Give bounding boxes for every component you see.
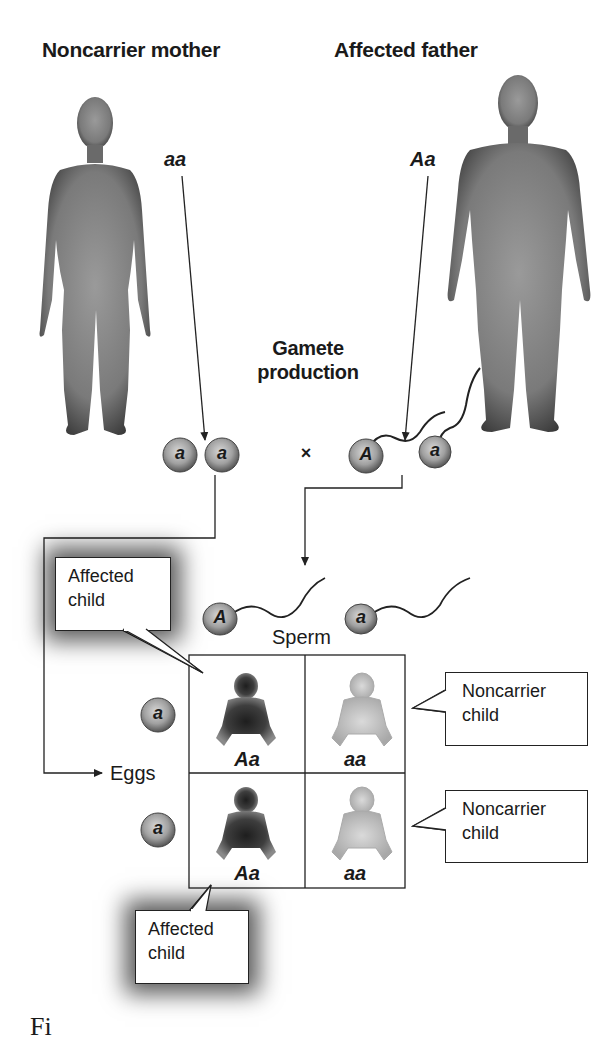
punnett-sperm-allele-A: A bbox=[210, 607, 230, 628]
callout-line2: child bbox=[68, 588, 158, 612]
father-genotype: Aa bbox=[410, 148, 436, 171]
egg-allele-1: a bbox=[170, 443, 190, 464]
sperm-label: Sperm bbox=[272, 626, 331, 649]
cell-genotype-3: Aa bbox=[189, 862, 305, 885]
punnett-sperm-allele-a: a bbox=[351, 607, 371, 628]
mother-genotype: aa bbox=[164, 148, 186, 171]
cell-genotype-1: Aa bbox=[189, 748, 305, 771]
callout-line1: Noncarrier bbox=[462, 679, 575, 703]
baby-affected-1-icon bbox=[216, 673, 276, 746]
cross-symbol: × bbox=[296, 443, 316, 464]
gamete-production-label: Gamete production bbox=[248, 336, 368, 384]
figure-caption-fragment: Fi bbox=[30, 1012, 52, 1039]
callout-line1: Affected bbox=[68, 564, 158, 588]
egg-allele-2: a bbox=[212, 443, 232, 464]
affected-child-callout-top: Affected child bbox=[55, 557, 171, 631]
noncarrier-child-callout-bottom: Noncarrier child bbox=[445, 790, 588, 863]
sperm-allele-a: a bbox=[425, 440, 445, 461]
mother-title: Noncarrier mother bbox=[42, 38, 220, 62]
gamete-production-line1: Gamete bbox=[248, 336, 368, 360]
gamete-production-line2: production bbox=[248, 360, 368, 384]
father-title: Affected father bbox=[334, 38, 478, 62]
baby-affected-2-icon bbox=[216, 787, 276, 860]
callout-line1: Affected bbox=[148, 917, 236, 941]
father-figure-icon bbox=[448, 75, 591, 432]
sperm-allele-A: A bbox=[356, 444, 376, 465]
punnett-egg-allele-2: a bbox=[148, 818, 168, 839]
baby-noncarrier-1-icon bbox=[332, 673, 392, 746]
cell-genotype-4: aa bbox=[305, 862, 405, 885]
affected-child-callout-bottom: Affected child bbox=[135, 910, 249, 984]
callout-line2: child bbox=[462, 821, 575, 845]
baby-noncarrier-2-icon bbox=[332, 787, 392, 860]
eggs-label: Eggs bbox=[110, 762, 156, 785]
cell-genotype-2: aa bbox=[305, 748, 405, 771]
callout-line2: child bbox=[148, 941, 236, 965]
callout-line1: Noncarrier bbox=[462, 797, 575, 821]
callout-line2: child bbox=[462, 703, 575, 727]
punnett-egg-allele-1: a bbox=[148, 703, 168, 724]
noncarrier-child-callout-top: Noncarrier child bbox=[445, 672, 588, 746]
mother-figure-icon bbox=[40, 97, 151, 435]
